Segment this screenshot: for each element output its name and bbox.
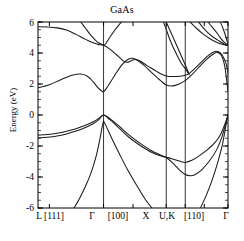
band-structure-plot [0,0,244,241]
band-structure-figure: GaAs Energy (eV) 6 4 2 0 -2 -4 -6 L [111… [0,0,244,241]
